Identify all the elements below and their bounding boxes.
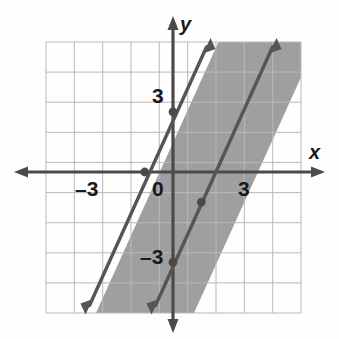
left-line-point-y-intercept xyxy=(169,107,178,116)
y-axis-bottom-arrow xyxy=(168,319,179,333)
right-line-point-1 xyxy=(197,198,206,207)
y-axis-tick-label-minus-3: –3 xyxy=(140,245,163,269)
y-axis-label: y xyxy=(180,13,191,36)
right-line-point-y-intercept xyxy=(169,258,178,267)
x-axis-tick-label-3: 3 xyxy=(238,177,250,201)
origin-label: 0 xyxy=(152,177,164,201)
left-line-point-x-intercept xyxy=(140,168,149,177)
graph-canvas xyxy=(0,0,339,339)
x-axis-left-arrow xyxy=(14,167,28,178)
graph-figure: 3 –3 –3 3 0 x y xyxy=(0,0,339,339)
y-axis-tick-label-3: 3 xyxy=(152,84,164,108)
x-axis-right-arrow xyxy=(311,167,325,178)
y-axis-top-arrow xyxy=(168,16,179,30)
x-axis-tick-label-minus-3: –3 xyxy=(75,177,98,201)
x-axis-label: x xyxy=(309,141,320,164)
